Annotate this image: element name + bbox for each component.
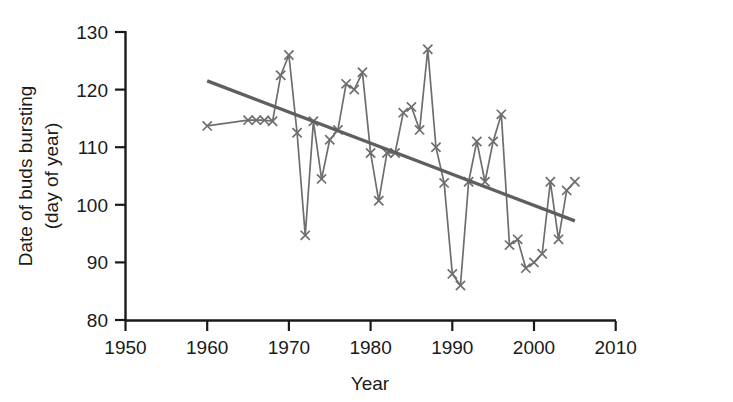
x-tick-label-1960: 1960 — [186, 337, 228, 358]
y-tick-label-110: 110 — [78, 137, 108, 158]
x-tick-label-1950: 1950 — [104, 337, 146, 358]
x-tick-label-1990: 1990 — [431, 337, 473, 358]
y-axis-title-line1: Date of buds bursting — [15, 86, 36, 267]
x-tick-label-1970: 1970 — [268, 337, 310, 358]
x-tick-marks — [126, 321, 616, 331]
buds-bursting-line-chart: 130 120 110 100 90 80 1950 1960 1970 198… — [0, 0, 733, 402]
trend-line — [207, 81, 575, 221]
chart-container: 130 120 110 100 90 80 1950 1960 1970 198… — [0, 0, 733, 402]
y-tick-label-130: 130 — [76, 22, 108, 43]
data-point-marker — [513, 235, 522, 244]
x-axis-title: Year — [351, 373, 390, 394]
data-series-line — [207, 49, 575, 285]
data-point-markers — [203, 45, 580, 290]
data-point-marker — [407, 102, 416, 111]
data-point-marker — [521, 264, 530, 273]
y-tick-label-90: 90 — [87, 252, 108, 273]
y-tick-label-120: 120 — [76, 80, 108, 101]
y-tick-marks — [115, 32, 125, 320]
x-tick-label-2000: 2000 — [513, 337, 555, 358]
data-point-marker — [570, 177, 579, 186]
y-tick-label-100: 100 — [76, 195, 108, 216]
data-point-marker — [350, 85, 359, 94]
y-tick-label-80: 80 — [87, 310, 108, 331]
y-axis-title-line2: (day of year) — [41, 123, 62, 230]
x-tick-label-1980: 1980 — [349, 337, 391, 358]
x-tick-label-2010: 2010 — [595, 337, 637, 358]
data-point-marker — [529, 258, 538, 267]
